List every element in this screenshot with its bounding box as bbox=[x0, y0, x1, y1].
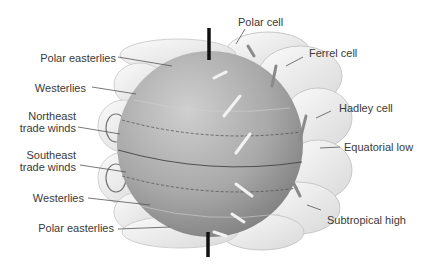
label-polar-cell: Polar cell bbox=[238, 16, 283, 28]
label-northeast-line2: trade winds bbox=[20, 122, 76, 134]
label-southeast-line1: Southeast bbox=[20, 149, 76, 161]
label-southeast-line2: trade winds bbox=[20, 161, 76, 173]
earth-globe bbox=[117, 51, 303, 237]
label-westerlies-south: Westerlies bbox=[33, 192, 84, 204]
label-subtropical-high: Subtropical high bbox=[327, 214, 406, 226]
label-westerlies-north: Westerlies bbox=[35, 82, 86, 94]
label-equatorial-low: Equatorial low bbox=[344, 141, 413, 153]
label-southeast-trade-winds: Southeast trade winds bbox=[20, 149, 76, 173]
label-polar-easterlies-south: Polar easterlies bbox=[38, 222, 114, 234]
label-hadley-cell: Hadley cell bbox=[339, 102, 393, 114]
label-polar-easterlies-north: Polar easterlies bbox=[40, 52, 116, 64]
label-ferrel-cell: Ferrel cell bbox=[309, 47, 357, 59]
label-northeast-line1: Northeast bbox=[20, 110, 76, 122]
label-northeast-trade-winds: Northeast trade winds bbox=[20, 110, 76, 134]
